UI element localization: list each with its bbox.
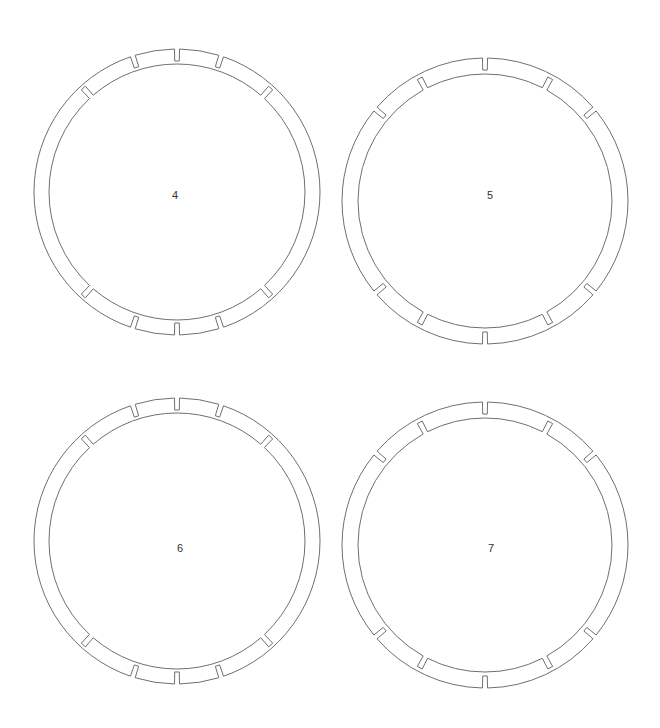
ring-label: 7 — [488, 542, 494, 554]
ring-label: 4 — [172, 189, 178, 201]
ring-inner-contour — [358, 74, 612, 328]
ring-diagram-canvas: 4 5 6 7 — [0, 0, 660, 728]
ring-outer-contour — [342, 402, 628, 688]
ring-label: 5 — [487, 189, 493, 201]
ring-outer-contour — [342, 58, 628, 344]
ring-5: 5 — [342, 58, 628, 344]
ring-4: 4 — [34, 49, 320, 335]
ring-label: 6 — [177, 542, 183, 554]
ring-7: 7 — [342, 402, 628, 688]
ring-inner-contour — [358, 418, 612, 672]
ring-6: 6 — [34, 398, 320, 684]
